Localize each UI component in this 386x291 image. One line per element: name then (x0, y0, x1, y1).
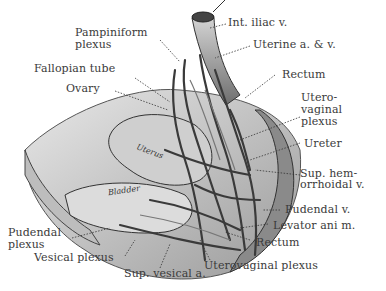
label-pampiniform: Pampiniform (75, 28, 148, 38)
label-ureter: Ureter (304, 139, 342, 149)
label-pudendal-plexus: plexus (8, 240, 45, 250)
label-pudendal-v: Pudendal v. (285, 205, 350, 215)
label-fallopian-tube: Fallopian tube (34, 64, 115, 74)
label-vesical-plexus: Vesical plexus (34, 253, 114, 263)
label-rectum-top: Rectum (282, 70, 326, 80)
label-vaginal: vaginal (301, 105, 342, 115)
label-rectum-bottom: Rectum (256, 238, 300, 248)
label-uterine-av: Uterine a. & v. (253, 40, 336, 50)
label-int-iliac-v: Int. iliac v. (228, 18, 287, 28)
label-orrhoidal-v: orrhoidal v. (300, 180, 365, 190)
label-pudendal: Pudendal (8, 228, 61, 238)
label-levator-ani: Levator ani m. (273, 221, 355, 231)
label-utero: Utero- (301, 93, 337, 103)
label-pampiniform-plexus: plexus (75, 40, 112, 50)
label-ovary: Ovary (66, 84, 100, 94)
label-sup-vesical-a: Sup. vesical a. (124, 269, 206, 279)
label-plexus: plexus (301, 117, 338, 127)
anatomical-illustration: Int. iliac v. Pampiniform plexus Uterine… (0, 0, 386, 291)
label-uterovaginal-plexus: Uterovaginal plexus (204, 261, 318, 271)
